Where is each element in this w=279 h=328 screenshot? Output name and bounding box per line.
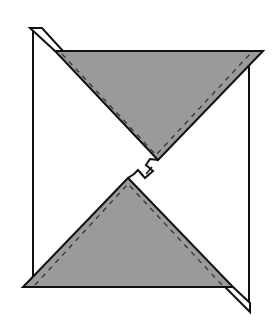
folding-diagram (0, 0, 279, 328)
upper-left-strip (30, 28, 63, 51)
lower-triangle-flap (23, 178, 233, 287)
center-seam (128, 159, 158, 178)
upper-triangle-flap (55, 51, 263, 160)
lower-right-strip (225, 287, 250, 312)
diagram-svg (0, 0, 279, 328)
